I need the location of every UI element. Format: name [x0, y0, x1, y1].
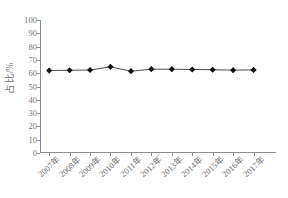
- data-point-marker: [230, 67, 236, 73]
- data-point-marker: [46, 67, 52, 73]
- x-axis-tick-label: 2016年: [221, 155, 246, 179]
- x-axis-tick-label: 2014年: [180, 155, 205, 179]
- data-point-marker: [189, 66, 195, 72]
- y-axis-tick-label: 30: [29, 109, 38, 118]
- y-axis-tick-mark: [37, 100, 40, 101]
- data-point-marker: [210, 67, 216, 73]
- x-axis-tick-label: 2015年: [200, 155, 225, 179]
- y-axis-tick-mark: [37, 20, 40, 21]
- y-axis-tick-label: 80: [29, 42, 38, 51]
- y-axis-tick-label: 40: [29, 96, 38, 105]
- x-axis-tick-label: 2009年: [78, 155, 103, 179]
- y-axis-tick-labels: 0102030405060708090100: [16, 0, 37, 160]
- y-axis-tick-mark: [37, 33, 40, 34]
- x-axis-tick-label: 2012年: [139, 155, 164, 179]
- data-series: [40, 20, 276, 153]
- x-axis-tick-label: 2008年: [57, 155, 82, 179]
- data-point-marker: [128, 68, 134, 74]
- plot-area: [40, 20, 276, 153]
- y-axis-tick-mark: [37, 60, 40, 61]
- y-axis-tick-mark: [37, 73, 40, 74]
- data-point-marker: [169, 66, 175, 72]
- x-axis-tick-label: 2017年: [241, 155, 266, 179]
- y-axis-tick-label: 20: [29, 122, 38, 131]
- y-axis-tick-label: 90: [29, 29, 38, 38]
- y-axis-tick-mark: [37, 140, 40, 141]
- data-point-marker: [67, 67, 73, 73]
- y-axis-tick-mark: [37, 47, 40, 48]
- y-axis-tick-label: 50: [29, 82, 38, 91]
- x-axis-tick-label: 2011年: [119, 155, 144, 179]
- data-point-marker: [250, 67, 256, 73]
- x-axis-tick-label: 2007年: [37, 155, 62, 179]
- y-axis-tick-label: 10: [29, 135, 38, 144]
- y-axis-tick-mark: [37, 113, 40, 114]
- x-axis-tick-labels: 2007年2008年2009年2010年2011年2012年2013年2014年…: [40, 155, 288, 198]
- data-point-marker: [148, 66, 154, 72]
- y-axis-tick-mark: [37, 87, 40, 88]
- x-axis-tick-label: 2013年: [159, 155, 184, 179]
- y-axis-title-text: 占比/%: [2, 62, 16, 93]
- data-point-marker: [87, 67, 93, 73]
- y-axis-tick-label: 60: [29, 69, 38, 78]
- y-axis-tick-label: 100: [24, 16, 37, 25]
- line-chart: 占比/% 0102030405060708090100 2007年2008年20…: [0, 0, 288, 198]
- x-axis-tick-label: 2010年: [98, 155, 123, 179]
- data-point-marker: [107, 64, 113, 70]
- y-axis-tick-mark: [37, 153, 40, 154]
- y-axis-tick-label: 70: [29, 56, 38, 65]
- y-axis-tick-mark: [37, 126, 40, 127]
